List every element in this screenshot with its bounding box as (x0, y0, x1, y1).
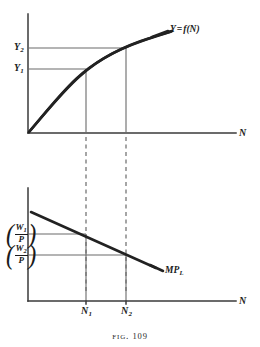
top-guide-lines (28, 48, 126, 133)
production-function-curve-label: Y=f(N) (170, 25, 200, 35)
n2-axis-tick-label: N2 (121, 306, 132, 318)
production-function-curve (29, 31, 171, 132)
caption-number: 109 (132, 331, 147, 341)
curve-label-leader-bottom (150, 265, 163, 271)
paren-open-w2: ( (6, 241, 14, 269)
n1-axis-tick-label: N1 (81, 306, 92, 318)
figure-caption: Fig.109 (0, 331, 260, 341)
figure-109: Y2 Y1 Y=f(N) N ( W1 P ) ( W2 P ) MPL N1 … (0, 0, 260, 347)
bottom-panel-axes (28, 188, 236, 301)
top-panel-axes (28, 14, 236, 133)
caption-label: Fig. (112, 331, 129, 341)
y1-axis-tick-label: Y1 (14, 63, 24, 75)
y2-axis-tick-label: Y2 (14, 42, 24, 54)
wage-ratio-2-label: ( W2 P ) (6, 243, 36, 267)
marginal-product-curve-label: MPL (165, 266, 184, 277)
fraction-w2-over-p: W2 P (14, 244, 28, 266)
bottom-guide-lines (28, 234, 126, 301)
inter-panel-connectors (86, 137, 126, 293)
figure-drawing (0, 0, 260, 347)
marginal-product-curve (31, 212, 156, 268)
bottom-x-axis-label: N (239, 296, 246, 306)
paren-close-w2: ) (28, 241, 36, 269)
production-function-curve-overlay (29, 31, 172, 132)
fraction-w1-over-p: W1 P (14, 223, 28, 245)
top-x-axis-label: N (239, 128, 246, 138)
